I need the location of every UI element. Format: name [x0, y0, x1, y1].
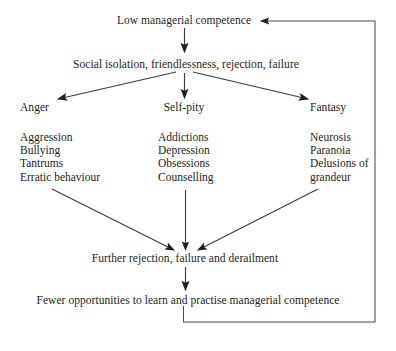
list-item: Aggression [20, 131, 100, 144]
list-item: Neurosis [310, 131, 368, 144]
list-item: Counselling [158, 171, 214, 184]
list-item: Tantrums [20, 157, 100, 170]
list-item: grandeur [310, 171, 368, 184]
node-branch-self-pity: Self-pity [164, 101, 205, 114]
node-branch-anger: Anger [20, 101, 49, 114]
list-self-pity-symptoms: Addictions Depression Obsessions Counsel… [158, 131, 214, 184]
list-item: Delusions of [310, 157, 368, 170]
node-root: Low managerial competence [117, 14, 251, 27]
node-outcome: Fewer opportunities to learn and practis… [37, 294, 340, 307]
list-item: Obsessions [158, 157, 214, 170]
list-item: Addictions [158, 131, 214, 144]
connector-fantasy-list-to-converge [198, 189, 318, 250]
flowchart-diagram: Low managerial competence Social isolati… [0, 0, 396, 351]
list-anger-symptoms: Aggression Bullying Tantrums Erratic beh… [20, 131, 100, 184]
list-item: Erratic behaviour [20, 171, 100, 184]
list-item: Depression [158, 144, 214, 157]
connector-consequence-to-fantasy [193, 72, 308, 99]
node-converge: Further rejection, failure and derailmen… [92, 252, 278, 265]
node-consequence: Social isolation, friendlessness, reject… [73, 58, 299, 71]
list-item: Bullying [20, 144, 100, 157]
list-fantasy-symptoms: Neurosis Paranoia Delusions of grandeur [310, 131, 368, 184]
node-branch-fantasy: Fantasy [310, 101, 346, 114]
list-item: Paranoia [310, 144, 368, 157]
connector-anger-list-to-converge [52, 189, 174, 250]
connector-consequence-to-anger [58, 72, 176, 99]
